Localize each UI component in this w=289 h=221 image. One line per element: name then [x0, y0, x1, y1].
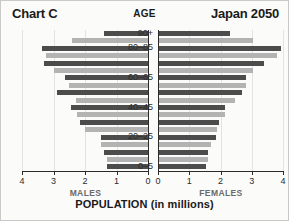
bar: [158, 112, 225, 117]
bar-row: [158, 89, 283, 96]
age-label: 20–25: [103, 131, 153, 141]
age-label: 0–5: [103, 161, 153, 171]
bar: [158, 98, 235, 103]
bar-row: [158, 82, 283, 89]
axis-tick-label: 4: [273, 176, 289, 186]
axis-tick: [117, 171, 118, 175]
bar-row: [158, 67, 283, 74]
axis-tick-label: 0: [148, 176, 168, 186]
bar: [158, 105, 225, 110]
chart-title: Japan 2050: [211, 6, 279, 21]
axis-tick-label: 2: [75, 176, 95, 186]
males-axis-label: MALES: [22, 188, 149, 198]
age-label: 60–65: [103, 72, 153, 82]
bar: [158, 75, 246, 80]
axis-tick: [221, 171, 222, 175]
bar-row: [158, 111, 283, 118]
bar-row: [158, 104, 283, 111]
females-bar-group: [158, 30, 283, 171]
bar-row: [158, 141, 283, 148]
bar: [158, 135, 216, 140]
axis-tick: [85, 171, 86, 175]
bar-row: [158, 134, 283, 141]
bar: [158, 142, 211, 147]
bar: [158, 164, 206, 169]
axis-tick: [148, 171, 149, 175]
age-category-labels: 90+80–8560–6540–4520–250–5: [103, 30, 153, 171]
females-axis-spine: [158, 30, 159, 171]
bar-row: [158, 156, 283, 163]
axis-tick: [252, 171, 253, 175]
bar-row: [158, 52, 283, 59]
bar-row: [158, 60, 283, 67]
gridline: [283, 30, 284, 171]
axis-tick-label: 3: [44, 176, 64, 186]
bar: [158, 68, 253, 73]
bar-row: [158, 97, 283, 104]
axis-tick-label: 1: [107, 176, 127, 186]
females-axis-label: FEMALES: [158, 188, 284, 198]
bar: [158, 127, 217, 132]
bar: [158, 157, 208, 162]
bar: [158, 61, 264, 66]
age-label: 40–45: [103, 102, 153, 112]
bar: [158, 90, 242, 95]
bar: [158, 31, 230, 36]
bar-row: [158, 74, 283, 81]
bar: [158, 46, 281, 51]
bar: [158, 83, 246, 88]
bar-row: [158, 126, 283, 133]
bar: [158, 120, 219, 125]
females-plot-panel: [158, 30, 283, 171]
age-label: 80–85: [103, 42, 153, 52]
axis-tick: [54, 171, 55, 175]
axis-tick-label: 1: [179, 176, 199, 186]
bar-row: [158, 149, 283, 156]
bar-row: [158, 163, 283, 170]
axis-tick: [283, 171, 284, 175]
bar-row: [158, 37, 283, 44]
bar-row: [158, 119, 283, 126]
age-label: 90+: [103, 28, 153, 38]
bar: [158, 38, 253, 43]
bar-row: [158, 30, 283, 37]
axis-tick: [189, 171, 190, 175]
axis-tick-label: 4: [12, 176, 32, 186]
axis-tick-label: 3: [242, 176, 262, 186]
bar-row: [158, 45, 283, 52]
chart-container: Chart C AGE Japan 2050 90+80–8560–6540–4…: [0, 0, 289, 221]
axis-tick: [22, 171, 23, 175]
bar: [158, 53, 277, 58]
population-axis-title: POPULATION (in millions): [0, 198, 289, 210]
axis-tick-label: 2: [211, 176, 231, 186]
axis-tick: [158, 171, 159, 175]
bar: [158, 150, 208, 155]
